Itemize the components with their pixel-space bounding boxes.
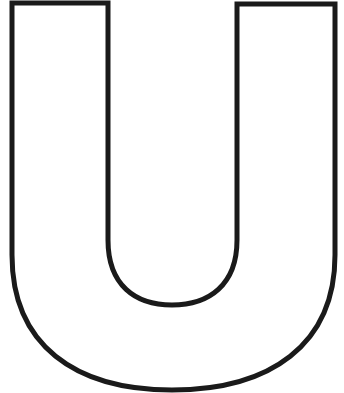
letter-u-outline — [0, 0, 344, 393]
letter-u-shape — [12, 3, 335, 390]
